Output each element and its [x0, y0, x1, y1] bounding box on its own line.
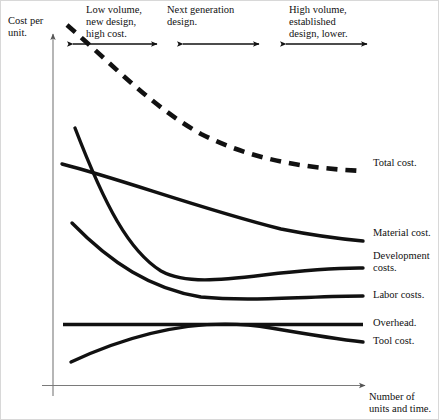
- phase-label-2-line1: Next generation: [167, 4, 234, 16]
- series-label-development-costs-line2: costs.: [373, 262, 397, 274]
- series-label-overhead: Overhead.: [373, 317, 416, 329]
- x-axis-label-line2: units and time.: [369, 403, 431, 415]
- phase-label-2-line2: design.: [167, 16, 197, 28]
- phase-label-3-line1: High volume,: [289, 4, 347, 16]
- phase-label-3-line3: design, lower.: [289, 28, 348, 40]
- series-label-development-costs-line1: Development: [373, 250, 430, 262]
- chart-canvas: [1, 1, 439, 420]
- series-label-total-cost: Total cost.: [373, 157, 417, 169]
- x-axis-label-line1: Number of: [369, 391, 415, 403]
- y-axis-label-line2: unit.: [8, 27, 27, 39]
- phase-label-3-line2: established: [289, 16, 336, 28]
- phase-label-1-line3: high cost.: [86, 28, 127, 40]
- series-label-tool-cost: Tool cost.: [373, 335, 414, 347]
- cost-per-unit-chart: Cost per unit. Number of units and time.…: [0, 0, 439, 420]
- y-axis-label-line1: Cost per: [8, 15, 43, 27]
- series-tool-cost: [71, 324, 363, 362]
- series-total-cost: [67, 25, 363, 171]
- phase-label-1-line2: new design,: [86, 16, 136, 28]
- phase-label-1-line1: Low volume,: [86, 4, 142, 16]
- series-development-costs: [75, 128, 363, 280]
- series-label-material-cost: Material cost.: [373, 227, 431, 239]
- series-label-labor-costs: Labor costs.: [373, 289, 424, 301]
